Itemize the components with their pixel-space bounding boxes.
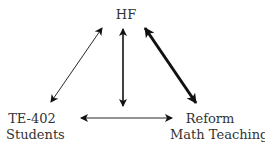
- node-reform-line1: Reform: [170, 111, 250, 127]
- node-reform-line2: Math Teaching: [170, 127, 250, 143]
- node-te402-line1: TE-402: [6, 111, 58, 127]
- arrow-students-hf: [51, 28, 102, 102]
- arrow-hf-reform: [145, 28, 196, 103]
- node-te402-line2: Students: [6, 127, 58, 143]
- node-hf: HF: [112, 7, 140, 23]
- node-te402-students: TE-402 Students: [6, 111, 58, 143]
- diagram: HF TE-402 Students Reform Math Teaching: [0, 0, 265, 154]
- node-reform-math: Reform Math Teaching: [170, 111, 250, 143]
